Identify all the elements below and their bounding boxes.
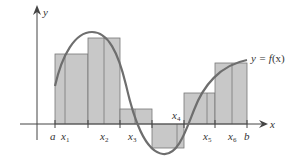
riemann-rectangles xyxy=(55,38,247,148)
label-x3: x3 xyxy=(127,130,137,144)
curve-label-x: (x) xyxy=(272,52,285,65)
x-axis-label: x xyxy=(269,118,275,130)
label-x5-sub: 5 xyxy=(208,136,212,144)
label-x1: x1 xyxy=(60,130,70,144)
label-b: b xyxy=(244,130,250,142)
label-x4: x4 xyxy=(171,109,181,123)
label-x4-sub: 4 xyxy=(177,115,181,123)
y-axis-label: y xyxy=(42,6,48,18)
label-x3-sub: 3 xyxy=(133,136,137,144)
curve-label-pre: y = xyxy=(250,52,269,64)
curve-label: y = f(x) xyxy=(250,52,285,65)
label-a: a xyxy=(50,130,56,142)
label-x5: x5 xyxy=(202,130,212,144)
riemann-sum-diagram: y x y = f(x) a x1 x2 x3 x4 x5 x6 b xyxy=(0,0,296,164)
label-x6-sub: 6 xyxy=(233,136,237,144)
rectangle-1 xyxy=(55,54,88,124)
label-x2-sub: 2 xyxy=(105,136,109,144)
label-x6: x6 xyxy=(227,130,237,144)
label-x1-sub: 1 xyxy=(66,136,70,144)
label-x2: x2 xyxy=(99,130,109,144)
